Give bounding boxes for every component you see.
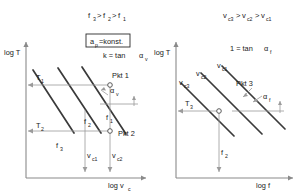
right-marker-T3: T 3	[185, 99, 193, 110]
left-header-f1-sub: 1	[123, 16, 126, 22]
left-marker-T1-sub: 1	[41, 78, 44, 84]
left-proj-T2-arrow	[28, 129, 33, 134]
left-label-pkt2: Pkt 2	[118, 129, 135, 138]
right-header-gt2: >	[255, 11, 260, 20]
left-angle-label: α v	[110, 86, 119, 97]
left-proj-T1-arrow	[28, 83, 33, 88]
left-x-axis-label: log v c	[108, 181, 131, 192]
right-header-gt1: >	[236, 11, 241, 20]
right-curve-label-vc1: v c1	[217, 61, 228, 72]
right-x-arrowhead	[288, 175, 293, 180]
left-marker-T2: T 2	[36, 121, 44, 132]
right-header-vc3-main: v	[223, 11, 227, 20]
left-alpha-leader	[101, 90, 108, 95]
left-curve-label-f3: f 3	[56, 141, 63, 152]
left-header-gt2: >	[112, 11, 117, 20]
left-header-gt1: >	[97, 11, 102, 20]
left-x-axis-label-sub: c	[128, 186, 131, 192]
right-curve-label-vc1-main: v	[217, 61, 221, 70]
left-formula-alpha: α	[139, 51, 144, 60]
left-curve-f2	[58, 68, 101, 133]
right-header-vc3-sub: c3	[228, 16, 234, 22]
left-x-axis-label-main: log v	[108, 181, 124, 190]
left-proj-vc2-arrow	[108, 167, 113, 172]
right-curve-label-vc3-sub: c3	[184, 83, 190, 89]
left-label-pkt1: Pkt 1	[112, 71, 129, 80]
right-angle-label-sub: f	[269, 97, 271, 103]
left-formula-sub: v	[145, 56, 148, 62]
left-marker-vc1-sub: c1	[92, 156, 98, 162]
right-curve-label-vc2-main: v	[196, 69, 200, 78]
left-header-ordering: f 3 > f 2 > f 1	[88, 11, 126, 22]
left-header-f3-sub: 3	[93, 16, 96, 22]
right-curve-label-vc3: v c3	[179, 78, 190, 89]
left-marker-vc2-sub: c2	[117, 156, 123, 162]
left-formula-lead: k = tan	[103, 51, 125, 60]
left-header-f2-sub: 2	[108, 16, 111, 22]
right-header-vc2-sub: c2	[247, 16, 253, 22]
right-point-pkt3	[217, 109, 222, 114]
left-curve-label-f3-main: f	[56, 141, 59, 150]
right-y-arrowhead	[173, 42, 178, 47]
left-y-axis-label: log T	[4, 48, 21, 57]
right-curve-vc1	[222, 66, 285, 129]
left-header-f2-main: f	[103, 11, 106, 20]
boxed-note-sub: p	[95, 42, 98, 48]
left-marker-T1: T 1	[36, 73, 44, 84]
boxed-note: a p =konst.	[90, 37, 123, 48]
left-marker-vc2-main: v	[112, 151, 116, 160]
technical-diagram: f 3 > f 2 > f 1 v c3 > v c2 > v c1 a p =…	[0, 0, 299, 194]
left-formula: k = tan α v	[103, 51, 148, 62]
right-marker-f2-main: f	[221, 148, 224, 157]
right-proj-f2-arrow	[217, 167, 222, 172]
right-y-axis-label: log T	[154, 48, 171, 57]
right-angle-tick-arrow	[278, 101, 282, 105]
right-angle-label-alpha: α	[263, 92, 268, 101]
right-curve-vc2	[201, 73, 262, 134]
left-curve-label-f3-sub: 3	[60, 146, 63, 152]
left-angle-label-alpha: α	[110, 86, 115, 95]
left-x-arrowhead	[141, 175, 146, 180]
right-angle-label: α f	[263, 92, 271, 103]
left-header-f1-main: f	[118, 11, 121, 20]
right-formula: 1 = tan α f	[230, 44, 272, 55]
left-marker-vc1: v c1	[87, 151, 98, 162]
right-curve-label-vc1-sub: c1	[222, 66, 228, 72]
right-chart-group	[173, 42, 293, 181]
left-marker-vc1-main: v	[87, 151, 91, 160]
right-marker-T3-sub: 3	[190, 104, 193, 110]
right-formula-sub: f	[270, 49, 272, 55]
left-chart-group	[23, 34, 146, 181]
left-y-arrowhead	[23, 42, 28, 47]
right-header-vc1-sub: c1	[266, 16, 272, 22]
left-header-f3-main: f	[88, 11, 91, 20]
right-curve-label-vc2: v c2	[196, 69, 207, 80]
left-angle-tick-arrow	[132, 96, 136, 100]
left-alpha-leader-arrow	[101, 87, 106, 90]
figure-canvas: f 3 > f 2 > f 1 v c3 > v c2 > v c1 a p =…	[0, 0, 299, 194]
right-x-axis-label: log f	[256, 181, 271, 190]
left-curve-label-f1-main: f	[106, 113, 109, 122]
right-formula-lead: 1 = tan	[230, 44, 253, 53]
left-curve-label-f2: f 2	[84, 117, 91, 128]
left-curve-label-f2-main: f	[84, 117, 87, 126]
left-curve-label-f1-sub: 1	[110, 118, 113, 124]
right-marker-f2: f 2	[221, 148, 228, 159]
right-header-ordering: v c3 > v c2 > v c1	[223, 11, 272, 22]
right-marker-f2-sub: 2	[225, 153, 228, 159]
right-header-vc1-main: v	[261, 11, 265, 20]
left-proj-vc1-arrow	[83, 167, 88, 172]
right-curve-vc3	[181, 83, 234, 136]
right-label-pkt3: Pkt 3	[236, 79, 253, 88]
right-proj-T3-arrow	[178, 109, 183, 114]
boxed-note-rest: =konst.	[99, 37, 123, 46]
left-curve-label-f2-sub: 2	[88, 122, 91, 128]
left-curve-label-f1: f 1	[106, 113, 113, 124]
left-marker-vc2: v c2	[112, 151, 123, 162]
left-angle-label-sub: v	[116, 91, 119, 97]
left-point-pkt2	[108, 129, 113, 134]
left-marker-T2-sub: 2	[41, 126, 44, 132]
right-formula-alpha: α	[264, 44, 269, 53]
right-header-vc2-main: v	[242, 11, 246, 20]
right-curve-label-vc3-main: v	[179, 78, 183, 87]
